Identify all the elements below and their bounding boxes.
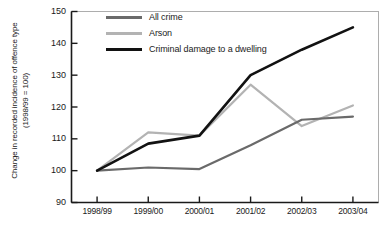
legend-swatch-icon: [106, 16, 142, 19]
legend-item[interactable]: Arson: [106, 25, 267, 41]
legend-label: All crime: [149, 13, 183, 22]
legend-label: Arson: [149, 29, 172, 38]
legend-label: Criminal damage to a dwelling: [149, 45, 267, 54]
legend-item[interactable]: Criminal damage to a dwelling: [106, 41, 267, 57]
legend-swatch-icon: [106, 48, 142, 51]
legend-item[interactable]: All crime: [106, 9, 267, 25]
line-chart: Change in recorded incidence of offence …: [0, 0, 381, 236]
legend-swatch-icon: [106, 32, 142, 35]
chart-legend: All crimeArsonCriminal damage to a dwell…: [106, 9, 267, 57]
x-tick-label: 2003/04: [323, 206, 381, 216]
